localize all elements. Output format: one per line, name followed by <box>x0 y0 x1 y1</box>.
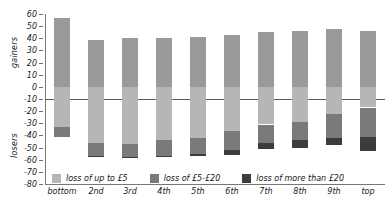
bar-segment-loss-1[interactable] <box>54 87 70 127</box>
x-tick-label-5th: 5th <box>191 187 204 196</box>
bar-segment-loss-2[interactable] <box>88 143 104 156</box>
legend-item[interactable]: loss of up to £5 <box>52 174 128 183</box>
y-tick-label: -50 <box>24 143 37 152</box>
bar-segment-loss-3[interactable] <box>88 156 104 157</box>
bar-segment-loss-2[interactable] <box>224 131 240 150</box>
bar-segment-loss-2[interactable] <box>258 125 274 143</box>
bar-segment-loss-3[interactable] <box>360 137 376 152</box>
y-tick-mark <box>39 160 43 161</box>
bar-segment-loss-1[interactable] <box>224 87 240 131</box>
y-axis-tick-labels: 6050403020100-10-20-30-40-50-60-70-80 <box>0 0 45 224</box>
bar-segment-loss-2[interactable] <box>54 127 70 137</box>
bar-segment-loss-2[interactable] <box>122 144 138 157</box>
bar-segment-loss-3[interactable] <box>292 140 308 147</box>
bar-segment-gainers[interactable] <box>190 37 206 87</box>
y-tick-label: -10 <box>24 95 37 104</box>
bar-segment-loss-3[interactable] <box>326 138 342 145</box>
x-tick-label-2nd: 2nd <box>88 187 103 196</box>
bar-segment-gainers[interactable] <box>292 31 308 87</box>
x-tick-label-bottom: bottom <box>48 187 77 196</box>
bar-segment-loss-2[interactable] <box>292 122 308 140</box>
bar-segment-gainers[interactable] <box>88 40 104 87</box>
y-tick-mark <box>39 14 43 15</box>
bar-segment-loss-1[interactable] <box>156 87 172 140</box>
y-tick-label: -80 <box>24 180 37 189</box>
y-tick-mark <box>39 135 43 136</box>
y-tick-label: -20 <box>24 107 37 116</box>
y-tick-label: 0 <box>32 82 37 91</box>
x-tick-label-3rd: 3rd <box>123 187 136 196</box>
bar-segment-loss-1[interactable] <box>360 87 376 108</box>
chart-legend: loss of up to £5loss of £5-£20loss of mo… <box>52 172 366 184</box>
bar-segment-loss-3[interactable] <box>258 143 274 149</box>
y-tick-mark <box>39 148 43 149</box>
bar-segment-loss-1[interactable] <box>122 87 138 144</box>
bar-segment-loss-2[interactable] <box>326 114 342 138</box>
bar-segment-loss-3[interactable] <box>156 156 172 157</box>
bar-segment-gainers[interactable] <box>326 29 342 87</box>
bar-segment-loss-3[interactable] <box>122 157 138 158</box>
chart-container: gainers losers 6050403020100-10-20-30-40… <box>0 0 392 224</box>
bar-group[interactable] <box>326 14 342 184</box>
y-tick-label: -30 <box>24 119 37 128</box>
x-axis-tick-labels: bottom2nd3rd4th5th6th7th8th9thtop <box>45 187 385 203</box>
legend-label: loss of £5-£20 <box>164 174 221 183</box>
x-tick-label-9th: 9th <box>327 187 340 196</box>
bar-segment-loss-1[interactable] <box>326 87 342 114</box>
y-tick-label: 50 <box>27 22 37 31</box>
legend-label: loss of up to £5 <box>66 174 128 183</box>
y-tick-label: 40 <box>27 34 37 43</box>
bar-segment-loss-1[interactable] <box>190 87 206 138</box>
bar-group[interactable] <box>122 14 138 184</box>
bar-segment-loss-1[interactable] <box>292 87 308 122</box>
bar-group[interactable] <box>156 14 172 184</box>
bar-segment-gainers[interactable] <box>224 35 240 87</box>
legend-item[interactable]: loss of £5-£20 <box>150 174 221 183</box>
x-tick-label-4th: 4th <box>157 187 170 196</box>
bar-segment-gainers[interactable] <box>360 31 376 87</box>
y-tick-mark <box>39 50 43 51</box>
x-axis-line <box>45 184 385 185</box>
y-tick-mark <box>39 111 43 112</box>
y-tick-mark <box>39 87 43 88</box>
bar-group[interactable] <box>292 14 308 184</box>
y-tick-mark <box>39 63 43 64</box>
x-tick-label-top: top <box>361 187 374 196</box>
legend-swatch-icon <box>52 174 61 183</box>
y-tick-label: 30 <box>27 46 37 55</box>
y-tick-mark <box>39 38 43 39</box>
legend-item[interactable]: loss of more than £20 <box>242 174 344 183</box>
plot-area <box>45 14 385 184</box>
bar-group[interactable] <box>258 14 274 184</box>
y-tick-label: 20 <box>27 58 37 67</box>
x-tick-label-6th: 6th <box>225 187 238 196</box>
bar-group[interactable] <box>360 14 376 184</box>
legend-swatch-icon <box>242 174 251 183</box>
bar-group[interactable] <box>224 14 240 184</box>
y-tick-label: 60 <box>27 10 37 19</box>
bar-segment-loss-1[interactable] <box>258 87 274 125</box>
y-tick-label: -60 <box>24 155 37 164</box>
bar-segment-gainers[interactable] <box>258 32 274 87</box>
y-tick-mark <box>39 75 43 76</box>
bar-group[interactable] <box>190 14 206 184</box>
y-tick-label: 10 <box>27 70 37 79</box>
bar-segment-loss-1[interactable] <box>88 87 104 143</box>
y-tick-label: -40 <box>24 131 37 140</box>
bar-segment-loss-3[interactable] <box>190 154 206 156</box>
bar-segment-gainers[interactable] <box>156 38 172 87</box>
legend-label: loss of more than £20 <box>256 174 344 183</box>
bar-segment-loss-2[interactable] <box>190 138 206 154</box>
y-tick-mark <box>39 26 43 27</box>
y-tick-mark <box>39 123 43 124</box>
x-tick-label-8th: 8th <box>293 187 306 196</box>
legend-swatch-icon <box>150 174 159 183</box>
bar-segment-gainers[interactable] <box>54 18 70 87</box>
bar-segment-loss-2[interactable] <box>156 140 172 156</box>
bar-group[interactable] <box>54 14 70 184</box>
bar-segment-loss-2[interactable] <box>360 108 376 137</box>
bar-segment-gainers[interactable] <box>122 38 138 87</box>
bar-segment-loss-3[interactable] <box>224 150 240 155</box>
y-tick-label: -70 <box>24 167 37 176</box>
bar-group[interactable] <box>88 14 104 184</box>
